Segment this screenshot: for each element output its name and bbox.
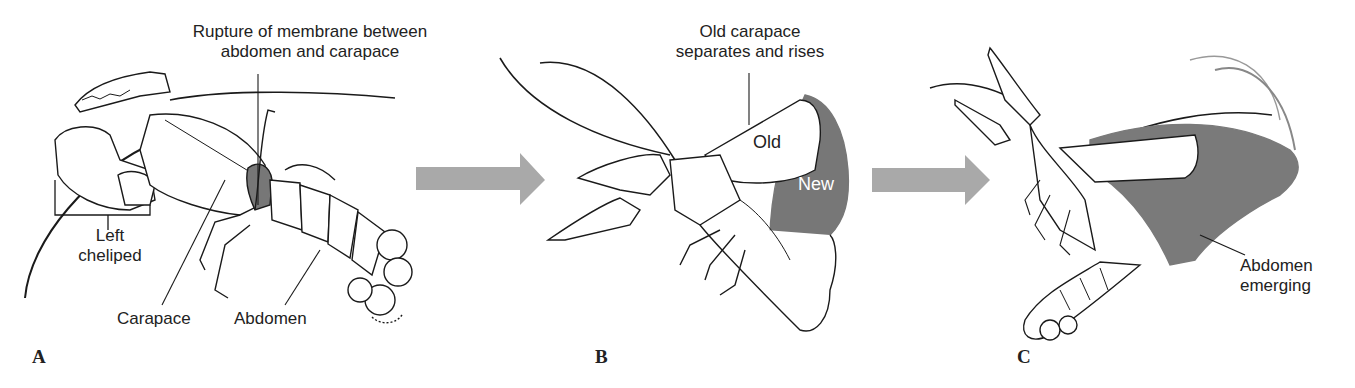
label-rupture: Rupture of membrane between abdomen and … — [165, 22, 455, 62]
label-left-cheliped: Left cheliped — [65, 226, 155, 266]
label-new: New — [798, 174, 834, 194]
lobster-drawing-b — [500, 58, 848, 331]
label-abdomen-emerging: Abdomen emerging — [1240, 256, 1330, 296]
figure-caption-clipped — [0, 378, 300, 388]
panel-letter-b: B — [595, 346, 608, 368]
arrow-b-to-c-icon — [872, 155, 990, 205]
label-abdomen: Abdomen — [234, 309, 307, 329]
label-old-carapace: Old carapace separates and rises — [655, 22, 845, 62]
panel-letter-a: A — [32, 346, 46, 368]
lobster-drawing-a — [25, 72, 412, 323]
label-old: Old — [753, 132, 781, 152]
panel-letter-c: C — [1017, 346, 1031, 368]
lobster-drawing-c — [930, 48, 1298, 340]
label-carapace: Carapace — [117, 309, 191, 329]
arrow-a-to-b-icon — [416, 153, 545, 205]
